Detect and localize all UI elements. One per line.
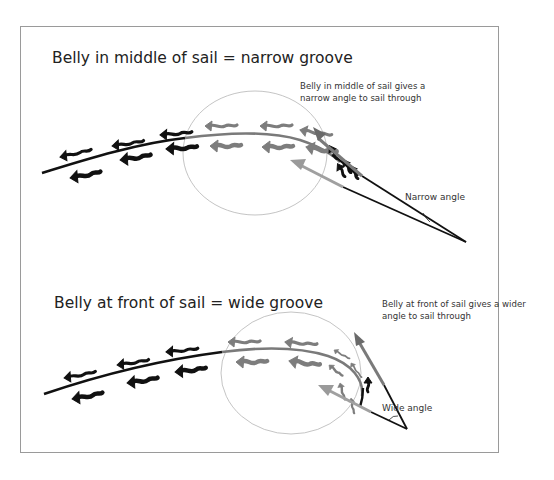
sail-groove-diagram: Belly in middle of sail = narrow groove … xyxy=(0,0,554,480)
angle-label: Wide angle xyxy=(382,403,433,413)
flow-arrows-outer xyxy=(63,344,206,405)
narrow-angle-lines xyxy=(290,127,466,242)
panel-note: Belly at front of sail gives a wider ang… xyxy=(382,299,528,321)
wavy-left-arrow-icon xyxy=(126,373,158,389)
wavy-left-arrow-icon xyxy=(260,121,292,131)
wide-angle-lines xyxy=(318,332,407,429)
wavy-left-arrow-icon xyxy=(63,368,96,383)
wavy-left-arrow-icon xyxy=(174,363,206,378)
belly-highlight-circle xyxy=(183,91,327,215)
wavy-left-arrow-icon xyxy=(119,150,151,166)
panel-title: Belly in middle of sail = narrow groove xyxy=(52,49,353,67)
angle-arc xyxy=(389,416,398,420)
panel-note: Belly in middle of sail gives a narrow a… xyxy=(300,81,428,103)
wavy-left-arrow-icon xyxy=(327,362,344,378)
wavy-left-arrow-icon xyxy=(205,121,237,131)
wavy-left-arrow-icon xyxy=(166,141,198,155)
wavy-left-arrow-icon xyxy=(69,167,102,184)
wavy-left-arrow-icon xyxy=(71,388,104,405)
panel-wide-groove: Belly at front of sail = wide groove Bel… xyxy=(44,294,528,434)
wavy-left-arrow-icon xyxy=(236,356,267,368)
curl-arrow-icon xyxy=(364,377,372,392)
panel-title: Belly at front of sail = wide groove xyxy=(54,294,323,312)
flow-arrows-leading-edge xyxy=(364,377,372,392)
flow-arrows-outer xyxy=(59,128,197,184)
wavy-left-arrow-icon xyxy=(262,141,293,153)
wavy-left-arrow-icon xyxy=(210,140,241,152)
wavy-left-arrow-icon xyxy=(228,337,260,347)
angle-label: Narrow angle xyxy=(405,192,465,202)
straight-arrow-icon xyxy=(354,332,365,346)
panel-narrow-groove: Belly in middle of sail = narrow groove … xyxy=(42,49,466,242)
wavy-left-arrow-icon xyxy=(288,355,320,371)
